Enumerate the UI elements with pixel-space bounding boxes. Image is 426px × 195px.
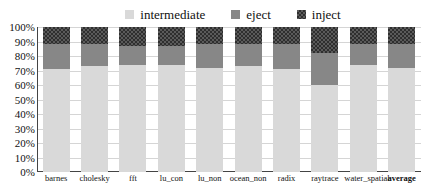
x-tick-label: radix bbox=[268, 174, 306, 183]
y-tick-label: 80% bbox=[0, 51, 35, 62]
legend-label: inject bbox=[312, 8, 341, 21]
y-tick-label: 100% bbox=[0, 22, 35, 33]
y-axis: 0%10%20%30%40%50%60%70%80%90%100% bbox=[0, 27, 35, 172]
legend-label: eject bbox=[246, 8, 271, 21]
gridline bbox=[38, 158, 421, 159]
x-tick-label: average bbox=[383, 174, 421, 183]
y-tick-label: 20% bbox=[0, 138, 35, 149]
plot-area bbox=[37, 27, 421, 172]
gridline bbox=[38, 114, 421, 115]
gridline bbox=[38, 42, 421, 43]
stacked-bar-chart: intermediateejectinject 0%10%20%30%40%50… bbox=[0, 0, 426, 195]
gridline bbox=[38, 129, 421, 130]
y-tick-label: 10% bbox=[0, 152, 35, 163]
gridline bbox=[38, 27, 421, 28]
x-tick-label: fft bbox=[114, 174, 152, 183]
legend-swatch-intermediate-icon bbox=[125, 10, 134, 19]
legend-swatch-inject-icon bbox=[297, 10, 306, 19]
x-tick-label: ocean_non bbox=[229, 174, 267, 183]
legend-label: intermediate bbox=[140, 8, 205, 21]
y-tick-label: 0% bbox=[0, 167, 35, 178]
x-tick-label: barnes bbox=[37, 174, 75, 183]
y-tick-label: 60% bbox=[0, 80, 35, 91]
x-tick-label: lu_non bbox=[191, 174, 229, 183]
gridline bbox=[38, 100, 421, 101]
x-tick-label: water_spatial bbox=[344, 174, 382, 183]
legend-item-eject[interactable]: eject bbox=[231, 8, 271, 21]
y-tick-label: 70% bbox=[0, 65, 35, 76]
y-tick-label: 50% bbox=[0, 94, 35, 105]
x-tick-label: cholesky bbox=[76, 174, 114, 183]
gridline bbox=[38, 71, 421, 72]
x-tick-label: lu_con bbox=[152, 174, 190, 183]
y-tick-label: 40% bbox=[0, 109, 35, 120]
x-tick-label: raytrace bbox=[306, 174, 344, 183]
legend-swatch-eject-icon bbox=[231, 10, 240, 19]
chart-legend: intermediateejectinject bbox=[0, 4, 426, 24]
y-tick-label: 30% bbox=[0, 123, 35, 134]
y-tick-label: 90% bbox=[0, 36, 35, 47]
gridline bbox=[38, 56, 421, 57]
legend-item-inject[interactable]: inject bbox=[297, 8, 341, 21]
x-axis: barnescholeskyfftlu_conlu_nonocean_nonra… bbox=[37, 174, 421, 190]
gridline bbox=[38, 85, 421, 86]
gridline bbox=[38, 143, 421, 144]
legend-item-intermediate[interactable]: intermediate bbox=[125, 8, 205, 21]
